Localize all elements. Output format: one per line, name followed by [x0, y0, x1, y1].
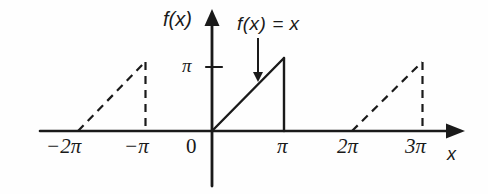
- annotation-arrow: [253, 38, 263, 82]
- y-axis-label: f(x): [163, 9, 192, 29]
- solid-ramp-principal: [212, 58, 284, 131]
- y-axis-arrowhead: [205, 9, 220, 26]
- y-tick-label-pi: π: [182, 56, 192, 75]
- dashed-ramp-left: [78, 62, 145, 131]
- x-tick-label-neg-2pi: −2π: [46, 136, 81, 157]
- figure-sawtooth-plot: f(x) x f(x) = x π −2π −π 0 π 2π 3π: [0, 0, 488, 194]
- dashed-ramp-right: [352, 62, 422, 131]
- x-tick-label-zero: 0: [186, 136, 197, 157]
- function-annotation-label: f(x) = x: [237, 14, 300, 33]
- y-axis: [205, 9, 220, 186]
- x-tick-label-neg-pi: −π: [124, 136, 149, 157]
- x-tick-label-3pi: 3π: [405, 136, 426, 157]
- x-axis-label: x: [447, 145, 456, 163]
- x-tick-label-pi: π: [277, 136, 288, 157]
- x-axis-arrowhead: [446, 124, 465, 139]
- x-tick-label-2pi: 2π: [337, 136, 358, 157]
- x-axis: [40, 124, 465, 139]
